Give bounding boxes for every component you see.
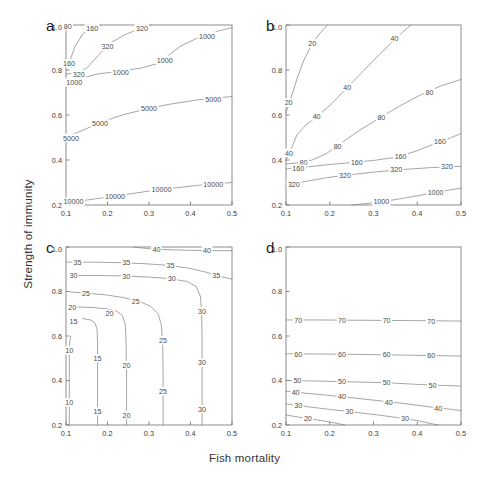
contour-label: 1000: [373, 197, 389, 206]
contour-label: 70: [338, 316, 346, 325]
x-tick-label: 0.4: [412, 429, 422, 438]
y-axis-title: Strength of immunity: [22, 144, 34, 324]
contour-label: 40: [203, 246, 211, 255]
x-tick-label: 0.3: [368, 209, 378, 218]
contour-label: 320: [339, 171, 351, 180]
contour-label: 10000: [63, 197, 83, 206]
contour-label: 320: [390, 165, 402, 174]
contour-label: 10000: [105, 192, 125, 201]
contour-line-40: [286, 25, 411, 160]
contour-label: 1000: [157, 56, 173, 65]
y-tick-label: 0.8: [52, 287, 62, 296]
x-tick-label: 0.3: [144, 429, 154, 438]
x-tick-label: 0.3: [368, 429, 378, 438]
panel-letter-c: c: [46, 239, 54, 256]
contour-label: 30: [198, 405, 206, 414]
contour-label: 35: [167, 261, 175, 270]
contour-label: 10000: [151, 185, 171, 194]
panel-b: 0.10.20.30.40.50.20.40.60.81.02020404040…: [266, 17, 466, 218]
contour-label: 25: [159, 336, 167, 345]
contour-label: 320: [288, 180, 300, 189]
contour-label: 320: [441, 162, 453, 171]
contour-label: 60: [427, 351, 435, 360]
x-tick-label: 0.4: [412, 209, 422, 218]
x-tick-label: 0.4: [185, 429, 195, 438]
contour-label: 1000: [199, 32, 215, 41]
figure-canvas: 0.10.20.30.40.50.20.40.60.81.08016016032…: [0, 0, 489, 485]
contour-label: 80: [426, 88, 434, 97]
panel-frame-a: [66, 25, 232, 205]
contour-label: 40: [391, 34, 399, 43]
panel-a: 0.10.20.30.40.50.20.40.60.81.08016016032…: [46, 17, 237, 218]
x-tick-label: 0.1: [281, 209, 291, 218]
contour-label: 20: [123, 411, 131, 420]
contour-label: 30: [294, 401, 302, 410]
contour-label: 20: [106, 309, 114, 318]
contour-label: 30: [345, 407, 353, 416]
x-tick-label: 0.2: [102, 209, 112, 218]
contour-label: 5000: [141, 104, 157, 113]
panel-letter-b: b: [266, 17, 274, 34]
contour-label: 160: [63, 59, 75, 68]
x-tick-label: 0.5: [227, 429, 237, 438]
y-tick-label: 0.8: [272, 66, 282, 75]
contour-label: 30: [122, 272, 130, 281]
y-tick-label: 0.6: [52, 332, 62, 341]
contour-label: 50: [293, 376, 301, 385]
x-tick-label: 0.3: [144, 209, 154, 218]
contour-label: 30: [401, 414, 409, 423]
panel-letter-a: a: [46, 17, 55, 34]
contour-label: 20: [308, 39, 316, 48]
contour-label: 30: [69, 271, 77, 280]
y-tick-label: 0.6: [272, 332, 282, 341]
contour-label: 15: [94, 407, 102, 416]
contour-label: 40: [313, 112, 321, 121]
contour-label: 5000: [205, 95, 221, 104]
panel-frame-d: [286, 247, 461, 425]
contour-label: 50: [429, 381, 437, 390]
contour-label: 1000: [113, 68, 129, 77]
contour-label: 10000: [203, 180, 223, 189]
contour-label: 160: [434, 137, 446, 146]
contour-label: 40: [434, 404, 442, 413]
panel-frame-c: [66, 247, 232, 425]
contour-label: 60: [338, 350, 346, 359]
y-tick-label: 0.8: [272, 287, 282, 296]
contour-label: 15: [69, 317, 77, 326]
y-tick-label: 0.4: [272, 376, 282, 385]
contour-label: 60: [294, 350, 302, 359]
contour-label: 35: [74, 258, 82, 267]
contour-label: 1000: [428, 188, 444, 197]
x-tick-label: 0.5: [456, 209, 466, 218]
y-tick-label: 0.2: [272, 201, 282, 210]
contour-label: 20: [68, 303, 76, 312]
panel-letter-d: d: [266, 239, 274, 256]
y-tick-label: 0.2: [52, 201, 62, 210]
contour-label: 70: [383, 316, 391, 325]
contour-line-25: [70, 292, 163, 425]
contour-label: 70: [294, 316, 302, 325]
contour-label: 60: [383, 350, 391, 359]
contour-figure: 0.10.20.30.40.50.20.40.60.81.08016016032…: [0, 0, 489, 485]
y-tick-label: 0.4: [52, 376, 62, 385]
contour-label: 160: [292, 164, 304, 173]
contour-label: 20: [285, 98, 293, 107]
x-tick-label: 0.1: [281, 429, 291, 438]
y-tick-label: 0.2: [52, 421, 62, 430]
contour-label: 50: [338, 377, 346, 386]
x-axis-title: Fish mortality: [0, 452, 489, 464]
contour-label: 160: [351, 158, 363, 167]
y-tick-label: 0.6: [52, 111, 62, 120]
contour-label: 40: [385, 398, 393, 407]
contour-label: 10: [65, 398, 73, 407]
x-tick-label: 0.4: [185, 209, 195, 218]
panel-d: 0.10.20.30.40.50.20.40.60.81.07070707060…: [266, 239, 466, 438]
contour-label: 40: [292, 388, 300, 397]
y-tick-label: 0.8: [52, 66, 62, 75]
contour-label: 70: [427, 317, 435, 326]
contour-label: 5000: [63, 134, 79, 143]
x-tick-label: 0.1: [61, 209, 71, 218]
contour-label: 30: [168, 274, 176, 283]
contour-line-20: [286, 415, 345, 425]
contour-label: 30: [198, 358, 206, 367]
